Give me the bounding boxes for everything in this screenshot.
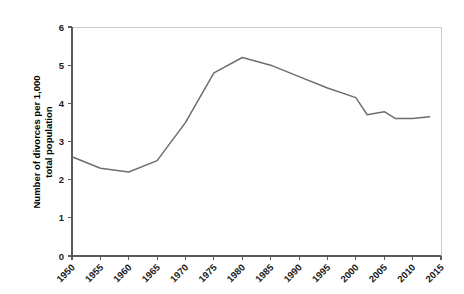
y-tick-label: 5 [59,60,65,71]
y-tick-label: 3 [59,136,64,147]
y-tick-label: 6 [59,22,64,33]
chart-background [0,0,464,294]
y-axis-title-line2: total population [43,106,54,177]
y-tick-label: 4 [59,98,65,109]
divorce-rate-chart: 0123456 19501955196019651970197519801985… [0,0,464,294]
y-tick-label: 2 [59,174,64,185]
y-tick-label: 0 [59,251,64,262]
y-axis-title-line1: Number of divorces per 1,000 [31,75,42,208]
chart-canvas: 0123456 19501955196019651970197519801985… [0,0,464,294]
y-tick-label: 1 [59,212,65,223]
